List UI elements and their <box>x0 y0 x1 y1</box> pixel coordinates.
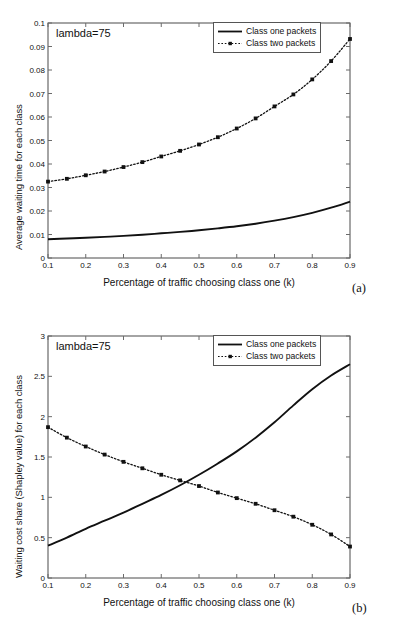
svg-text:0.5: 0.5 <box>34 534 46 543</box>
svg-text:0.5: 0.5 <box>193 261 205 270</box>
svg-text:0.09: 0.09 <box>29 43 45 52</box>
svg-text:0: 0 <box>41 254 46 263</box>
svg-text:3: 3 <box>41 332 46 341</box>
svg-text:0.04: 0.04 <box>29 160 45 169</box>
figure-panel-b: Waiting cost share (Shapley value) for e… <box>0 310 396 631</box>
legend-line-dotted-marker-icon <box>217 39 243 48</box>
svg-text:0.3: 0.3 <box>118 261 130 270</box>
svg-text:0.7: 0.7 <box>269 581 281 590</box>
svg-text:0.2: 0.2 <box>80 581 92 590</box>
legend-a: Class one packets Class two packets <box>213 22 321 53</box>
legend-label-class-two: Class two packets <box>246 350 315 362</box>
svg-text:0.5: 0.5 <box>193 581 205 590</box>
svg-text:0.02: 0.02 <box>29 207 45 216</box>
svg-text:0.01: 0.01 <box>29 231 45 240</box>
legend-entry-class-one: Class one packets <box>217 338 316 350</box>
lambda-annotation-a: lambda=75 <box>56 27 111 39</box>
svg-text:0.06: 0.06 <box>29 113 45 122</box>
svg-text:0.03: 0.03 <box>29 184 45 193</box>
svg-text:0: 0 <box>41 574 46 583</box>
svg-text:0.05: 0.05 <box>29 137 45 146</box>
svg-text:0.4: 0.4 <box>156 581 168 590</box>
lambda-annotation-b: lambda=75 <box>56 340 111 352</box>
legend-entry-class-two: Class two packets <box>217 350 316 362</box>
svg-text:0.3: 0.3 <box>118 581 130 590</box>
legend-entry-class-one: Class one packets <box>217 25 316 37</box>
subfigure-caption-b: (b) <box>352 601 367 616</box>
svg-text:1: 1 <box>41 493 46 502</box>
legend-label-class-one: Class one packets <box>246 25 316 37</box>
svg-text:0.8: 0.8 <box>307 581 319 590</box>
figure-panel-a: Average waiting time for each class 0.10… <box>0 0 396 310</box>
x-axis-label-b: Percentage of traffic choosing class one… <box>48 597 350 608</box>
legend-line-solid-icon <box>217 27 243 36</box>
legend-line-solid-icon <box>217 340 243 349</box>
svg-text:2.5: 2.5 <box>34 372 46 381</box>
svg-text:0.1: 0.1 <box>34 19 46 28</box>
svg-text:0.9: 0.9 <box>344 261 356 270</box>
svg-text:0.6: 0.6 <box>231 581 243 590</box>
svg-text:1.5: 1.5 <box>34 453 46 462</box>
legend-label-class-one: Class one packets <box>246 338 316 350</box>
plot-area-a: 0.10.20.30.40.50.60.70.80.900.010.020.03… <box>0 0 396 280</box>
legend-b: Class one packets Class two packets <box>213 335 321 366</box>
svg-text:2: 2 <box>41 413 46 422</box>
plot-area-b: 0.10.20.30.40.50.60.70.80.900.511.522.53 <box>0 310 396 600</box>
legend-entry-class-two: Class two packets <box>217 37 316 49</box>
svg-text:0.7: 0.7 <box>269 261 281 270</box>
svg-text:0.9: 0.9 <box>344 581 356 590</box>
x-axis-label-a: Percentage of traffic choosing class one… <box>48 277 350 288</box>
legend-line-dotted-marker-icon <box>217 352 243 361</box>
svg-text:0.6: 0.6 <box>231 261 243 270</box>
svg-text:0.08: 0.08 <box>29 66 45 75</box>
legend-label-class-two: Class two packets <box>246 37 315 49</box>
svg-text:0.07: 0.07 <box>29 90 45 99</box>
svg-text:0.2: 0.2 <box>80 261 92 270</box>
svg-text:0.8: 0.8 <box>307 261 319 270</box>
subfigure-caption-a: (a) <box>352 281 366 296</box>
svg-text:0.4: 0.4 <box>156 261 168 270</box>
